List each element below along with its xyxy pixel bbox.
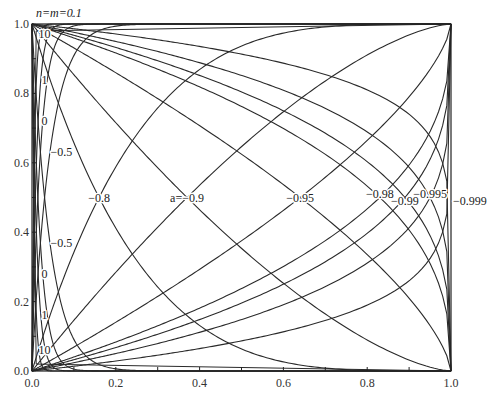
- y-tick-label: 0.6: [14, 156, 29, 170]
- curve-label: −0.8: [88, 191, 110, 205]
- y-tick-label: 0.4: [14, 225, 29, 239]
- y-tick-label: 0.0: [14, 364, 29, 378]
- chart-title: n=m=0.1: [36, 6, 82, 20]
- curve-label: −0.995: [413, 187, 447, 201]
- x-tick-label: 0.8: [360, 376, 375, 390]
- curve-label: 0: [42, 267, 48, 281]
- x-tick-label: 0.0: [25, 376, 40, 390]
- x-tick-label: 0.4: [192, 376, 207, 390]
- curve-label: 0: [42, 114, 48, 128]
- chart: 0.00.20.40.60.81.00.00.20.40.60.81.0 n=m…: [0, 0, 498, 400]
- x-tick-label: 0.6: [276, 376, 291, 390]
- curve-label: −0.95: [286, 191, 314, 205]
- curve-label: a=−0.9: [170, 191, 204, 205]
- x-tick-label: 0.2: [108, 376, 123, 390]
- curve-label: −0.999: [453, 194, 487, 208]
- curve-label: 10: [39, 343, 51, 357]
- axis-ticks: [32, 59, 409, 371]
- curve-label: −0.5: [50, 145, 72, 159]
- curve-label: 1: [42, 308, 48, 322]
- y-tick-label: 1.0: [14, 17, 29, 31]
- curve-label: 10: [39, 27, 51, 41]
- y-tick-label: 0.2: [14, 295, 29, 309]
- curve-label: −0.98: [366, 187, 394, 201]
- curve-label: 1: [42, 73, 48, 87]
- curve-label: −0.5: [50, 236, 72, 250]
- x-tick-label: 1.0: [444, 376, 459, 390]
- y-tick-label: 0.8: [14, 86, 29, 100]
